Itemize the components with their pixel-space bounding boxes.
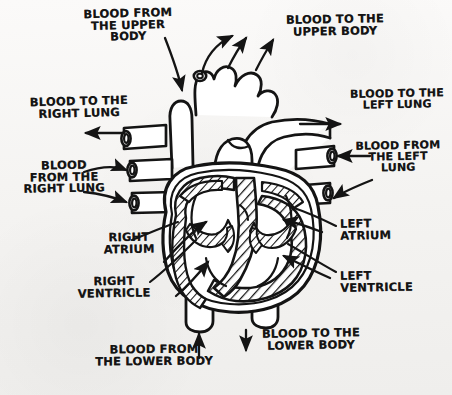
label-blood-to-lower-body: BLOOD TO THE LOWER BODY [252,327,370,352]
superior-vena-cava [170,101,193,168]
aortic-arch-branches [194,67,278,117]
label-blood-from-upper-body: BLOOD FROM THE UPPER BODY [74,7,183,45]
label-blood-from-lower-body: BLOOD FROM THE LOWER BODY [82,343,226,368]
label-blood-to-upper-body: BLOOD TO THE UPPER BODY [276,13,394,38]
label-left-atrium: LEFT ATRIUM [340,217,420,242]
label-blood-to-right-lung: BLOOD TO THE RIGHT LUNG [22,95,137,121]
label-blood-from-left-lung: BLOOD FROM THE LEFT LUNG [346,139,451,174]
label-blood-to-left-lung: BLOOD TO THE LEFT LUNG [344,87,450,111]
label-left-ventricle: LEFT VENTRICLE [340,269,440,294]
label-blood-from-right-lung: BLOOD FROM THE RIGHT LUNG [10,159,119,196]
heart-diagram-drawing [0,0,452,395]
label-right-atrium: RIGHT ATRIUM [88,231,170,256]
label-right-ventricle: RIGHT VENTRICLE [62,275,166,300]
